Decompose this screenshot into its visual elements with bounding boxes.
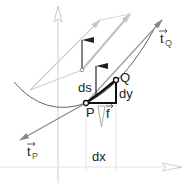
force-f-arrow-icon bbox=[98, 106, 105, 127]
point-q bbox=[114, 78, 119, 83]
label-ds: ds bbox=[78, 80, 92, 95]
label-tangent-p-sub: P bbox=[32, 151, 38, 161]
label-dx: dx bbox=[92, 149, 106, 164]
label-p: P bbox=[86, 105, 95, 120]
label-f: f bbox=[106, 106, 110, 121]
label-dy: dy bbox=[119, 86, 133, 101]
axis-arrow-up-icon bbox=[54, 6, 62, 22]
tangent-p-arrow bbox=[20, 103, 86, 140]
label-q: Q bbox=[120, 70, 130, 85]
horizontal-axis bbox=[0, 163, 182, 171]
label-tangent-q: t bbox=[160, 31, 164, 46]
arc-length-diagram: t Q t P Q P ds dy dx f bbox=[0, 0, 188, 183]
label-tangent-q-sub: Q bbox=[165, 38, 172, 48]
vertical-axis bbox=[54, 6, 62, 183]
label-tangent-p: t bbox=[27, 144, 31, 159]
